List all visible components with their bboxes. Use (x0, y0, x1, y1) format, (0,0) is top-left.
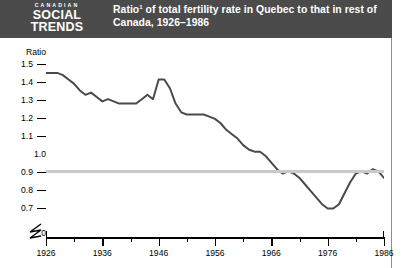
y-tick-dash (37, 118, 46, 119)
x-tick-major-1986 (384, 237, 385, 246)
reference-line-1.0 (46, 170, 384, 173)
x-label-1926: 1926 (26, 249, 66, 258)
y-tick-0.7: 0.7 (13, 204, 46, 212)
x-tick-minor-1961 (243, 237, 244, 242)
x-tick-minor-1941 (131, 237, 132, 242)
chart-header-band: CANADIAN SOCIAL TRENDS Ratio1 of total f… (0, 0, 392, 38)
y-tick-0.9: 0.9 (13, 168, 46, 176)
y-tick-dash (37, 172, 46, 173)
plot-area (46, 62, 384, 237)
y-tick-dash (37, 208, 46, 209)
x-tick-minor-1971 (300, 237, 301, 242)
chart-figure: CANADIAN SOCIAL TRENDS Ratio1 of total f… (0, 0, 409, 268)
x-tick-major-1956 (215, 237, 216, 246)
x-tick-major-1926 (46, 237, 47, 246)
y-tick-1.3: 1.3 (13, 96, 46, 104)
x-tick-minor-1981 (356, 237, 357, 242)
data-series-line (46, 62, 384, 237)
chart-title-rest: of total fertility rate in Quebec to tha… (113, 4, 377, 28)
x-label-1976: 1976 (308, 249, 348, 258)
y-tick-1.4: 1.4 (13, 78, 46, 86)
x-label-1956: 1956 (195, 249, 235, 258)
y-tick-dash (37, 82, 46, 83)
y-tick-1.5: 1.5 (13, 60, 46, 68)
y-tick-dash (37, 64, 46, 65)
y-tick-dash (37, 100, 46, 101)
y-tick-0.8: 0.8 (13, 186, 46, 194)
x-tick-minor-1931 (74, 237, 75, 242)
x-tick-major-1936 (102, 237, 103, 246)
x-label-1966: 1966 (251, 249, 291, 258)
x-tick-major-1946 (159, 237, 160, 246)
x-label-1986: 1986 (364, 249, 404, 258)
x-tick-minor-1951 (187, 237, 188, 242)
x-tick-major-1976 (328, 237, 329, 246)
y-tick-dash (37, 136, 46, 137)
x-label-1936: 1936 (82, 249, 122, 258)
x-tick-major-1966 (271, 237, 272, 246)
chart-title: Ratio1 of total fertility rate in Quebec… (113, 3, 385, 29)
y-tick-1.0: 1.0 (26, 150, 46, 158)
chart-title-main: Ratio (113, 4, 139, 15)
y-tick-1.1: 1.1 (13, 132, 46, 140)
x-label-1946: 1946 (139, 249, 179, 258)
y-tick-1.2: 1.2 (13, 114, 46, 122)
y-tick-dash (37, 190, 46, 191)
